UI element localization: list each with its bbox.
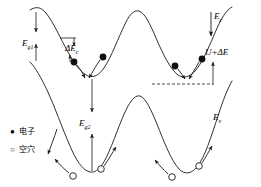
electron-marker — [172, 63, 179, 70]
label-eg1: Eg1 — [22, 39, 34, 50]
hole-marker — [169, 174, 176, 181]
electron-relax-arrow — [178, 69, 185, 79]
hole-marker — [70, 173, 77, 180]
legend-electron-label: 电子 — [19, 127, 35, 136]
label-ec: Ec — [214, 12, 222, 23]
band-diagram-figure: Eg1 ΔEc Eg2 Ec Ev U+ΔE ●电子 ○空穴 — [0, 0, 261, 187]
hole-legend-icon: ○ — [10, 146, 19, 154]
hole-move-arrow — [155, 160, 168, 174]
band-diagram-canvas — [0, 0, 261, 187]
electron-marker — [71, 59, 78, 66]
legend-hole-label: 空穴 — [19, 145, 35, 154]
legend-item-electron: ●电子 — [10, 128, 35, 136]
label-eg2: Eg2 — [79, 119, 91, 130]
hole-move-arrow — [55, 159, 69, 173]
electron-relax-arrow — [189, 62, 199, 79]
electron-marker — [100, 54, 107, 61]
legend-side-arrow — [48, 129, 57, 154]
label-ev: Ev — [213, 113, 221, 124]
legend-item-hole: ○空穴 — [10, 146, 35, 154]
hole-marker — [196, 163, 203, 170]
valence-band-curve — [30, 62, 232, 173]
electron-relax-arrow — [77, 65, 85, 78]
label-u-plus-delta-e: U+ΔE — [205, 48, 228, 57]
electron-legend-icon: ● — [10, 128, 19, 136]
conduction-band-curve — [30, 7, 232, 77]
label-delta-ec: ΔEc — [65, 44, 78, 55]
hole-marker — [98, 166, 105, 173]
electron-relax-arrow — [89, 60, 100, 78]
